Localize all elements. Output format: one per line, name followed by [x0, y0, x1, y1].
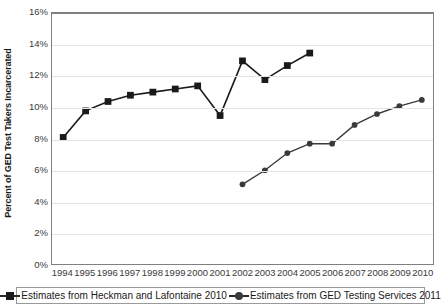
circle-marker-icon [329, 141, 335, 147]
square-marker-icon [239, 58, 246, 65]
circle-marker-icon [284, 150, 290, 156]
circle-marker-icon [229, 291, 249, 301]
circle-marker-icon [374, 111, 380, 117]
y-axis-tick-label: 6% [18, 165, 48, 175]
legend-label-series-two: Estimates from GED Testing Services 2011 [249, 290, 441, 301]
gridline [52, 76, 433, 77]
legend-entry-series-one[interactable]: Estimates from Heckman and Lafontaine 20… [0, 290, 228, 301]
y-axis-tick-label: 10% [18, 102, 48, 112]
square-marker-icon [0, 291, 20, 301]
legend-entry-series-two[interactable]: Estimates from GED Testing Services 2011 [228, 290, 441, 301]
circle-marker-icon [352, 122, 358, 128]
y-axis-tick-label: 14% [18, 39, 48, 49]
square-marker-icon [306, 50, 313, 57]
gridline [52, 203, 433, 204]
y-axis-tick-label: 4% [18, 197, 48, 207]
square-marker-icon [172, 86, 179, 93]
chart-figure: Percent of GED Test Takers Incarcerated … [0, 0, 441, 308]
circle-marker-icon [307, 141, 313, 147]
y-axis-tick-label: 8% [18, 134, 48, 144]
square-marker-icon [217, 112, 224, 119]
series-line [63, 53, 310, 137]
y-axis-tick-label: 16% [18, 7, 48, 17]
y-axis-title-label: Percent of GED Test Takers Incarcerated [3, 48, 13, 217]
square-marker-icon [194, 83, 201, 90]
gridline [52, 140, 433, 141]
y-axis-tick-label: 2% [18, 228, 48, 238]
x-axis-tick-labels: 1994199519961997199819992000200120022003… [51, 268, 434, 282]
square-marker-icon [105, 98, 112, 105]
chart-legend: Estimates from Heckman and Lafontaine 20… [16, 287, 425, 304]
plot-area [51, 12, 434, 265]
gridline [52, 234, 433, 235]
y-axis-tick-labels: 0%2%4%6%8%10%12%14%16% [14, 0, 48, 280]
square-marker-icon [149, 89, 156, 96]
square-marker-icon [284, 62, 291, 69]
circle-marker-icon [419, 97, 425, 103]
gridline [52, 108, 433, 109]
x-axis-tick-label: 2010 [403, 268, 441, 278]
gridline [52, 171, 433, 172]
circle-marker-icon [240, 181, 246, 187]
legend-label-series-one: Estimates from Heckman and Lafontaine 20… [20, 290, 227, 301]
square-marker-icon [127, 92, 134, 99]
gridline [52, 45, 433, 46]
y-axis-tick-label: 12% [18, 70, 48, 80]
square-marker-icon [262, 76, 269, 83]
